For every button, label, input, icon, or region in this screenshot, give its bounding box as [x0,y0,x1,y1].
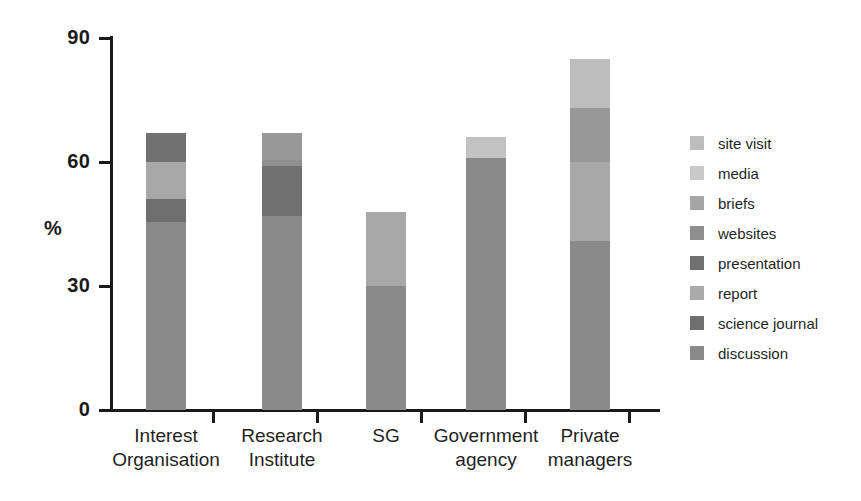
x-tick-3 [524,412,527,423]
bar-stack [366,212,406,410]
bar-segment-discussion [146,222,186,410]
bar-segment-discussion [366,286,406,410]
legend-swatch-icon [690,136,704,150]
bar-segment-report [146,162,186,199]
bar-stack [570,59,610,410]
bar-segment-presentation [146,133,186,162]
bar-segment-site-visit [570,59,610,109]
legend-item-science-journal: science journal [690,308,818,338]
bar-segment-science-journal [146,199,186,222]
legend-label: science journal [718,316,818,331]
y-tick-label-90: 90 [46,27,90,47]
bar-segment-briefs [570,108,610,162]
legend-swatch-icon [690,166,704,180]
category-label-4: Privatemanagers [500,424,680,472]
legend-label: report [718,286,757,301]
y-tick-label-0: 0 [46,399,90,419]
bar-segment-report [366,212,406,286]
y-tick-label-30: 30 [46,275,90,295]
legend-label: briefs [718,196,755,211]
legend-label: site visit [718,136,771,151]
bar-stack [466,137,506,410]
category-label-line: managers [500,448,680,472]
bar-segment-briefs [262,133,302,160]
legend-label: media [718,166,759,181]
x-tick-2 [420,412,423,423]
legend-label: websites [718,226,776,241]
category-label-line: Private [500,424,680,448]
legend-item-websites: websites [690,218,818,248]
legend-swatch-icon [690,316,704,330]
legend-swatch-icon [690,346,704,360]
legend-item-site-visit: site visit [690,128,818,158]
legend-item-discussion: discussion [690,338,818,368]
legend-item-media: media [690,158,818,188]
legend-swatch-icon [690,196,704,210]
x-tick-0 [212,412,215,423]
legend-swatch-icon [690,256,704,270]
x-tick-4 [628,412,631,423]
bar-stack [262,133,302,410]
legend-item-report: report [690,278,818,308]
bars-container [110,38,655,410]
legend-label: discussion [718,346,788,361]
legend-swatch-icon [690,286,704,300]
stacked-bar-chart: % 0306090 InterestOrganisationResearchIn… [0,0,861,501]
y-tick-label-wrap-90: 90 [10,27,90,47]
bar-segment-discussion [466,158,506,410]
legend-item-presentation: presentation [690,248,818,278]
y-axis-title: % [44,218,62,238]
bar-segment-discussion [262,216,302,410]
y-tick-label-60: 60 [46,151,90,171]
bar-stack [146,133,186,410]
bar-segment-discussion [570,241,610,410]
y-tick-label-wrap-30: 30 [10,275,90,295]
bar-segment-presentation [262,166,302,216]
category-label-line: Institute [192,448,372,472]
y-tick-label-wrap-0: 0 [10,399,90,419]
y-tick-label-wrap-60: 60 [10,151,90,171]
legend: site visitmediabriefswebsitespresentatio… [690,128,818,368]
x-tick-1 [316,412,319,423]
bar-segment-report [570,162,610,241]
legend-item-briefs: briefs [690,188,818,218]
legend-swatch-icon [690,226,704,240]
bar-segment-media [466,137,506,158]
legend-label: presentation [718,256,801,271]
